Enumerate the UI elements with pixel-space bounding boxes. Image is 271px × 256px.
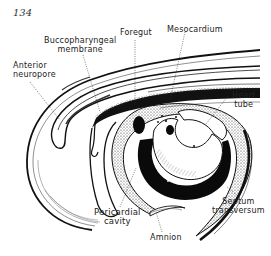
label-amnion: Amnion	[150, 233, 182, 242]
label-anterior-neuropore: Anterior neuropore	[13, 61, 56, 79]
heart-tube	[153, 110, 226, 180]
label-buccopharyngeal-membrane: Buccopharyngeal membrane	[44, 36, 117, 54]
amnion	[148, 206, 185, 216]
label-septum-transversum: Septum transversum	[212, 197, 265, 215]
label-mesocardium: Mesocardium	[167, 25, 223, 34]
label-foregut: Foregut	[120, 28, 152, 37]
label-heart-tube: Heart tube	[232, 91, 255, 109]
label-pericardial-cavity: Pericardial cavity	[94, 208, 141, 226]
